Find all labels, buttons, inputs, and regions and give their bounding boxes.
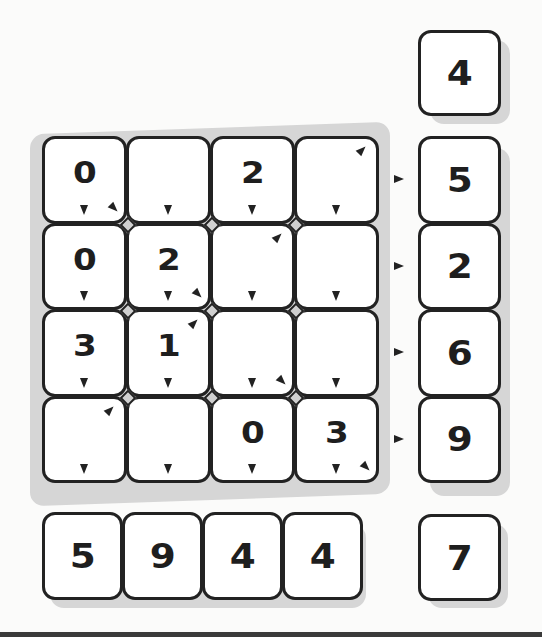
grid-cell-r0-c0[interactable]: 0 xyxy=(42,136,127,224)
grid-cell-r2-c1[interactable]: 1 xyxy=(126,309,211,397)
grid-cell-value: 0 xyxy=(241,417,265,448)
diagonal-down-right-arrow-icon xyxy=(276,374,289,387)
down-arrow-icon xyxy=(332,378,340,388)
grid-cell-value: 2 xyxy=(157,244,181,275)
down-arrow-icon xyxy=(80,378,88,388)
down-arrow-icon xyxy=(80,291,88,301)
row-sum-value: 2 xyxy=(446,249,472,283)
grid-cell-value: 3 xyxy=(73,330,97,361)
diagonal-down-right-arrow-icon xyxy=(192,288,205,301)
grid-cell-r3-c0[interactable] xyxy=(42,396,127,484)
column-sum-3: 4 xyxy=(282,512,363,600)
right-arrow-icon xyxy=(394,262,404,270)
grid-cell-r3-c2[interactable]: 0 xyxy=(210,396,295,484)
bottom-bar xyxy=(0,632,542,637)
down-arrow-icon xyxy=(332,291,340,301)
down-arrow-icon xyxy=(164,291,172,301)
grid-cell-r2-c0[interactable]: 3 xyxy=(42,309,127,397)
diagonal-up-right-arrow-icon xyxy=(356,144,369,157)
row-sum-2: 6 xyxy=(418,309,501,397)
diagonal-sum-top: 4 xyxy=(418,30,501,116)
diagonal-down-right-arrow-icon xyxy=(360,461,373,474)
grid-cell-r0-c1[interactable] xyxy=(126,136,211,224)
column-sum-value: 4 xyxy=(309,539,335,573)
row-sum-3: 9 xyxy=(418,396,501,484)
column-sum-value: 9 xyxy=(149,539,175,573)
grid-cell-r1-c2[interactable] xyxy=(210,223,295,311)
diagonal-up-right-arrow-icon xyxy=(188,317,201,330)
row-sum-1: 2 xyxy=(418,223,501,311)
down-arrow-icon xyxy=(248,291,256,301)
grid-cell-value: 3 xyxy=(325,417,349,448)
grid-cell-r1-c3[interactable] xyxy=(294,223,379,311)
right-arrow-icon xyxy=(394,175,404,183)
column-sum-0: 5 xyxy=(42,512,123,600)
down-arrow-icon xyxy=(164,205,172,215)
grid-cell-r3-c3[interactable]: 3 xyxy=(294,396,379,484)
down-arrow-icon xyxy=(248,464,256,474)
down-arrow-icon xyxy=(332,464,340,474)
diagonal-up-right-arrow-icon xyxy=(272,230,285,243)
grid-cell-value: 0 xyxy=(73,157,97,188)
grid-cell-value: 1 xyxy=(157,330,181,361)
row-sum-value: 6 xyxy=(446,336,472,370)
grid-cell-r2-c2[interactable] xyxy=(210,309,295,397)
grid-cell-r3-c1[interactable] xyxy=(126,396,211,484)
column-sum-1: 9 xyxy=(122,512,203,600)
grid-cell-r0-c3[interactable] xyxy=(294,136,379,224)
grid-cell-r0-c2[interactable]: 2 xyxy=(210,136,295,224)
row-sum-value: 9 xyxy=(446,422,472,456)
right-arrow-icon xyxy=(394,435,404,443)
diagonal-up-right-arrow-icon xyxy=(104,403,117,416)
right-arrow-icon xyxy=(394,348,404,356)
row-sum-0: 5 xyxy=(418,136,501,224)
grid-cell-r1-c0[interactable]: 0 xyxy=(42,223,127,311)
grid-cell-value: 2 xyxy=(241,157,265,188)
down-arrow-icon xyxy=(164,378,172,388)
column-sum-2: 4 xyxy=(202,512,283,600)
grid-cell-value: 0 xyxy=(73,244,97,275)
grid-cell-r1-c1[interactable]: 2 xyxy=(126,223,211,311)
diagonal-sum-bottom: 7 xyxy=(418,514,501,601)
diagonal-sum-bottom-value: 7 xyxy=(446,541,472,575)
down-arrow-icon xyxy=(332,205,340,215)
row-sum-value: 5 xyxy=(446,163,472,197)
diagonal-sum-top-value: 4 xyxy=(446,56,472,90)
down-arrow-icon xyxy=(80,205,88,215)
down-arrow-icon xyxy=(80,464,88,474)
diagonal-down-right-arrow-icon xyxy=(108,201,121,214)
column-sum-value: 4 xyxy=(229,539,255,573)
column-sum-value: 5 xyxy=(69,539,95,573)
down-arrow-icon xyxy=(164,464,172,474)
down-arrow-icon xyxy=(248,378,256,388)
grid-cell-r2-c3[interactable] xyxy=(294,309,379,397)
down-arrow-icon xyxy=(248,205,256,215)
